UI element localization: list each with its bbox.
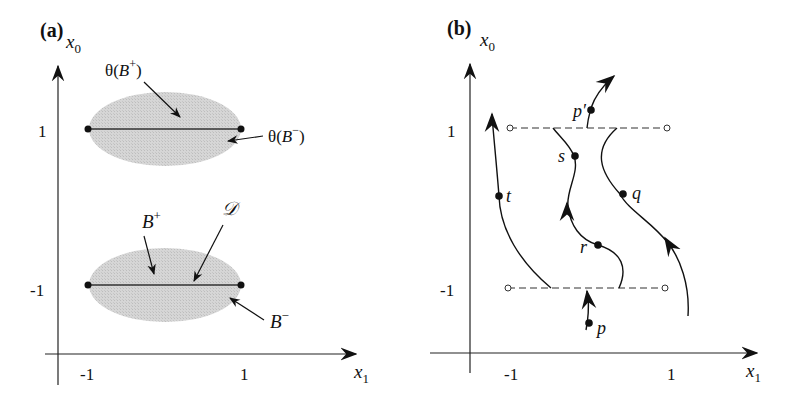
- x-axis-label: x1: [745, 360, 761, 385]
- x-tick-1: 1: [667, 365, 676, 384]
- endpoint: [85, 282, 92, 289]
- trajectory-p-prime: [587, 78, 612, 128]
- panel-a: (a) x0 x1 1 -1 -1 1 θ(B+) θ(B−) B+ 𝒟 B−: [30, 19, 369, 386]
- point-p-prime: [587, 106, 595, 114]
- y-tick-1: 1: [38, 122, 47, 141]
- panel-b: (b) x0 x1 1 -1 -1 1 t r s q: [430, 17, 761, 385]
- x-tick-1: 1: [240, 365, 249, 384]
- arrow: [587, 291, 588, 300]
- x-tick-neg1: -1: [504, 365, 518, 384]
- panel-b-title: (b): [447, 17, 471, 40]
- open-endpoint: [507, 125, 513, 131]
- y-tick-neg1: -1: [440, 281, 454, 300]
- label-b-plus: B+: [142, 208, 161, 232]
- point-q: [619, 190, 627, 198]
- label-q: q: [632, 183, 641, 203]
- label-t: t: [506, 186, 512, 206]
- y-axis-label: x0: [479, 29, 495, 54]
- point-t: [495, 192, 503, 200]
- x-tick-neg1: -1: [80, 365, 94, 384]
- open-endpoint: [662, 285, 668, 291]
- endpoint: [238, 126, 245, 133]
- label-b-minus: B−: [270, 308, 289, 332]
- label-p-prime: p′: [571, 101, 587, 121]
- label-s: s: [558, 146, 565, 166]
- x-axis-label: x1: [353, 361, 369, 386]
- y-tick-neg1: -1: [30, 281, 44, 300]
- label-theta-b-plus: θ(B+): [105, 57, 142, 80]
- point-s: [571, 152, 579, 160]
- arrow: [230, 298, 264, 320]
- trajectory-t: [492, 116, 551, 288]
- point-p: [585, 319, 593, 327]
- point-r: [594, 241, 602, 249]
- endpoint: [238, 282, 245, 289]
- panel-a-title: (a): [40, 19, 63, 42]
- open-endpoint: [505, 285, 511, 291]
- y-tick-1: 1: [447, 122, 456, 141]
- endpoint: [85, 126, 92, 133]
- arrow: [607, 76, 614, 82]
- label-r: r: [580, 237, 588, 257]
- arrow: [665, 238, 670, 246]
- figure: (a) x0 x1 1 -1 -1 1 θ(B+) θ(B−) B+ 𝒟 B−: [0, 0, 787, 398]
- label-theta-b-minus: θ(B−): [268, 123, 305, 146]
- label-p: p: [595, 318, 606, 338]
- y-axis-label: x0: [65, 31, 81, 56]
- open-endpoint: [664, 125, 670, 131]
- label-domain-d: 𝒟: [222, 198, 241, 219]
